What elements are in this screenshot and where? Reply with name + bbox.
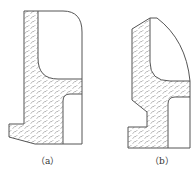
figure-a-lower-void — [63, 94, 82, 144]
cross-section-diagrams — [0, 0, 195, 179]
figure-b-label: （b） — [150, 154, 174, 167]
figure-a-upper-void — [38, 11, 82, 79]
figure-a-section — [9, 11, 82, 144]
figure-b-section — [128, 18, 190, 148]
figure-a-label: （a） — [36, 154, 59, 167]
figure-b-upper-void — [150, 18, 190, 81]
figure-a — [9, 11, 82, 144]
figure-b — [128, 18, 190, 148]
figure-b-lower-void — [168, 97, 190, 148]
